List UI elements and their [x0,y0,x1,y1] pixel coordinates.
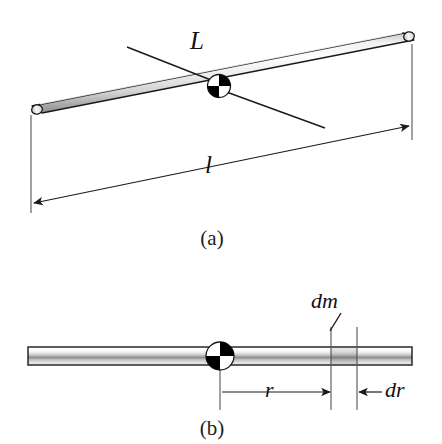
panel-a [31,31,415,213]
dimension-line-l [34,126,409,203]
pivot-quadrant-bottom-left-b [206,356,220,370]
width-dimension-label: dr [385,379,405,401]
pivot-quadrant-top-right-b [220,342,234,356]
radius-dimension-label: r [265,379,274,401]
rotation-axis-marker-a [208,75,231,98]
leader-line-axis [221,90,325,128]
mass-element-label-dm: dm [311,290,338,312]
panel-caption-a: (a) [162,228,262,249]
panel-b [28,313,412,410]
length-dimension-label: l [205,152,212,177]
axis-label-L: L [190,28,204,53]
rod-body [32,33,414,113]
rotation-axis-marker-b [206,342,234,370]
rod-3d [31,31,415,115]
pivot-quadrant-bottom-left-a [208,86,220,98]
rod-rotation-figure [0,0,442,444]
leader-line-dm [330,313,341,331]
mass-element-slab [331,348,357,364]
panel-caption-b: (b) [162,418,262,439]
